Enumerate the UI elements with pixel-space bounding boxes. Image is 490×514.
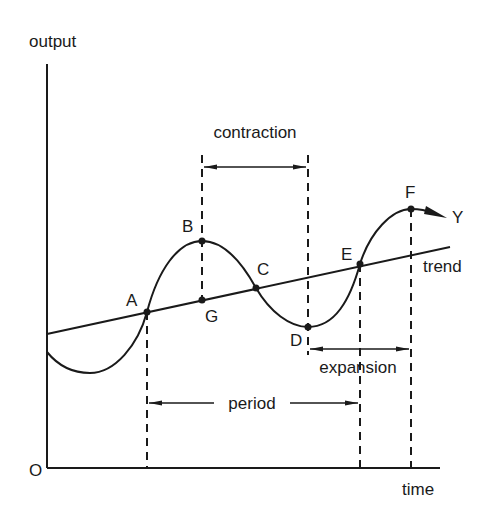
curve-arrow-icon: [424, 206, 447, 218]
period-label: period: [228, 394, 275, 413]
point-label-C: C: [257, 260, 269, 279]
business-cycle-diagram: output time O trend Y contraction expans…: [0, 0, 490, 514]
origin-label: O: [29, 461, 42, 480]
point-F: [408, 206, 415, 213]
point-D: [305, 324, 312, 331]
point-label-B: B: [182, 217, 193, 236]
point-A: [144, 309, 151, 316]
expansion-label: expansion: [319, 358, 397, 377]
trend-line: [47, 247, 450, 334]
x-axis-label: time: [402, 480, 434, 499]
point-C: [253, 285, 260, 292]
point-G: [199, 297, 206, 304]
contraction-label: contraction: [213, 123, 296, 142]
point-label-D: D: [290, 331, 302, 350]
curve-label: Y: [452, 208, 463, 227]
point-label-G: G: [205, 307, 218, 326]
point-label-A: A: [126, 291, 138, 310]
point-label-F: F: [405, 183, 415, 202]
point-B: [199, 238, 206, 245]
trend-label: trend: [423, 257, 462, 276]
point-label-E: E: [341, 245, 352, 264]
y-axis-label: output: [29, 32, 77, 51]
point-E: [357, 261, 364, 268]
